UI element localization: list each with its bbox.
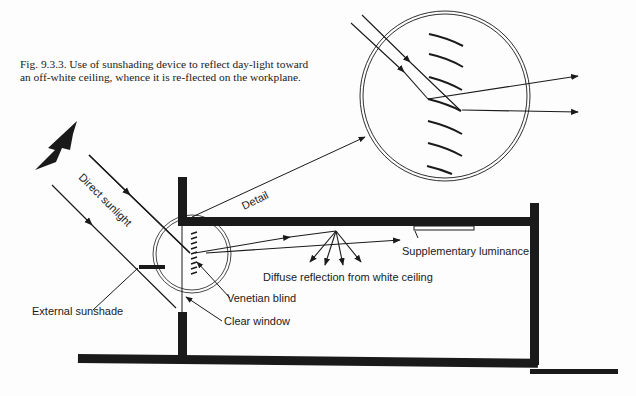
right-wall bbox=[530, 203, 539, 365]
label-venetian-blind: Venetian blind bbox=[227, 292, 296, 304]
diagram-svg: Direct sunlight Detail Supplementary lum… bbox=[0, 0, 636, 396]
sunshade-leader bbox=[93, 268, 138, 310]
floor-extension bbox=[530, 369, 618, 374]
detail-slats bbox=[427, 34, 463, 174]
ceiling-slab bbox=[178, 217, 535, 226]
diffuse-reflection-arrows bbox=[310, 231, 361, 265]
label-supplementary-luminance: Supplementary luminance bbox=[402, 245, 529, 257]
external-sunshade bbox=[139, 265, 165, 269]
lower-wall bbox=[178, 312, 187, 362]
detail-rays bbox=[351, 15, 578, 112]
sun-direction-icon bbox=[35, 121, 77, 170]
detail-leader bbox=[192, 137, 365, 217]
figure: Fig. 9.3.3. Use of sunshading device to … bbox=[0, 0, 636, 396]
supplementary-luminaire bbox=[414, 226, 474, 238]
label-detail: Detail bbox=[240, 189, 271, 212]
label-external-sunshade: External sunshade bbox=[32, 305, 123, 317]
sunlight-rays bbox=[52, 155, 190, 308]
floor-slab bbox=[78, 354, 538, 368]
label-clear-window: Clear window bbox=[224, 315, 290, 327]
label-diffuse-reflection: Diffuse reflection from white ceiling bbox=[263, 271, 433, 283]
clear-window-leader bbox=[186, 297, 222, 321]
label-direct-sunlight: Direct sunlight bbox=[77, 171, 135, 229]
